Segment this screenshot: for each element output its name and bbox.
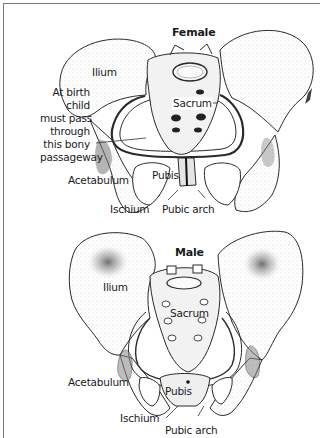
male-label-pubis: Pubis: [165, 385, 192, 398]
male-title: Male: [175, 246, 204, 259]
birth-note-line: At birth: [40, 86, 90, 99]
birth-note-line: must pass: [40, 112, 90, 125]
male-label-ilium: Ilium: [103, 281, 128, 294]
female-label-ilium: Ilium: [92, 66, 117, 79]
female-label-ischium: Ischium: [110, 203, 149, 216]
female-label-acetabulum: Acetabulum: [68, 174, 129, 187]
pelvis-illustration: [0, 0, 320, 438]
male-leader-lines: [166, 406, 204, 418]
male-label-sacrum: Sacrum: [170, 307, 209, 320]
female-title: Female: [172, 26, 215, 39]
male-right-ilium-shading: [242, 246, 282, 282]
male-label-ischium: Ischium: [120, 412, 159, 425]
male-left-ilium-shading: [86, 244, 130, 280]
female-birth-note: At birth child must pass through this bo…: [40, 86, 90, 164]
female-right-ilium: [220, 30, 313, 132]
female-label-pubis: Pubis: [152, 169, 179, 182]
birth-note-line: child: [40, 99, 90, 112]
female-label-sacrum: Sacrum: [172, 97, 213, 110]
male-label-pubic-arch: Pubic arch: [165, 424, 217, 437]
male-label-acetabulum: Acetabulum: [68, 376, 129, 389]
female-label-pubic-arch: Pubic arch: [162, 203, 214, 216]
birth-note-line: passageway: [40, 151, 90, 164]
birth-note-line: through: [40, 125, 90, 138]
male-vertebra-body: [167, 277, 201, 289]
birth-note-line: this bony: [40, 138, 90, 151]
